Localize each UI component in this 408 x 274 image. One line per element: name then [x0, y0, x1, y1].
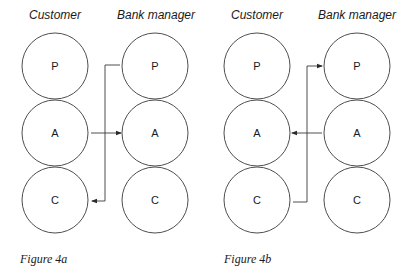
column-header-customer: Customer: [231, 8, 284, 22]
customer-ego-states: P A C: [224, 33, 290, 233]
arrow-customer-c-to-manager-p: [293, 66, 322, 202]
figure-4a: Customer Bank manager P A C P A C Figure…: [19, 8, 196, 266]
figure-caption: Figure 4a: [19, 252, 67, 266]
ego-label-p: P: [253, 60, 260, 72]
bank-manager-ego-states: P A C: [122, 33, 188, 233]
column-header-bank-manager: Bank manager: [318, 8, 397, 22]
customer-ego-states: P A C: [22, 33, 88, 233]
column-header-customer: Customer: [29, 8, 82, 22]
figure-caption: Figure 4b: [223, 252, 271, 266]
ego-label-a: A: [51, 127, 59, 139]
ego-label-c: C: [353, 194, 361, 206]
ego-label-p: P: [51, 60, 58, 72]
transactional-analysis-diagram: Customer Bank manager P A C P A C Figure…: [0, 0, 408, 274]
bank-manager-ego-states: P A C: [324, 33, 390, 233]
figure-4b: Customer Bank manager P A C P A C Figure…: [223, 8, 397, 266]
ego-label-c: C: [253, 194, 261, 206]
ego-label-c: C: [151, 194, 159, 206]
ego-label-c: C: [51, 194, 59, 206]
ego-label-p: P: [353, 60, 360, 72]
column-header-bank-manager: Bank manager: [117, 8, 196, 22]
ego-label-a: A: [151, 127, 159, 139]
ego-label-a: A: [253, 127, 261, 139]
ego-label-p: P: [151, 60, 158, 72]
ego-label-a: A: [353, 127, 361, 139]
